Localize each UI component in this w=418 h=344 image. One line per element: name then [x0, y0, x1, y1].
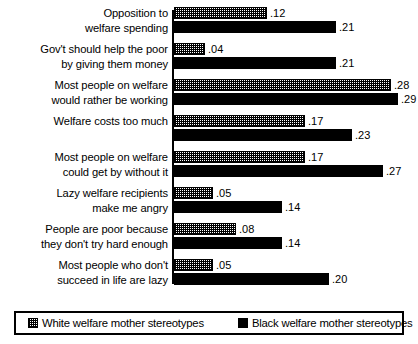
bar-value-label: .29 — [398, 93, 416, 105]
bar-black-series — [174, 165, 383, 177]
grouped-bar-chart: Opposition to welfare spending.12.21Gov'… — [0, 0, 418, 344]
bar-group: Lazy welfare recipients make me angry.05… — [0, 184, 418, 218]
bar-black-series — [174, 21, 336, 33]
bar-value-label: .04 — [205, 43, 223, 55]
chart-legend: White welfare mother stereotypes Black w… — [14, 311, 404, 335]
bar-group: People are poor because they don't try h… — [0, 220, 418, 254]
legend-label-black: Black welfare mother stereotypes — [252, 317, 413, 330]
bar-white-series — [174, 79, 391, 91]
legend-item-black: Black welfare mother stereotypes — [238, 317, 413, 330]
bar-value-label: .27 — [383, 165, 401, 177]
bar-group: Gov't should help the poor by giving the… — [0, 40, 418, 74]
legend-label-white: White welfare mother stereotypes — [42, 317, 204, 330]
bar-group: Most people on welfare could get by with… — [0, 148, 418, 182]
category-label: Most people on welfare would rather be w… — [8, 76, 168, 107]
bar-group: Opposition to welfare spending.12.21 — [0, 4, 418, 38]
bar-white-series — [174, 187, 213, 199]
bar-white-series — [174, 151, 305, 163]
bar-group: Most people who don't succeed in life ar… — [0, 256, 418, 290]
bar-white-series — [174, 115, 305, 127]
bar-white-series — [174, 7, 267, 19]
bar-black-series — [174, 237, 282, 249]
bar-black-series — [174, 57, 336, 69]
bar-value-label: .08 — [236, 223, 254, 235]
category-label: Welfare costs too much — [8, 112, 168, 129]
bar-group: Most people on welfare would rather be w… — [0, 76, 418, 110]
bar-value-label: .05 — [213, 259, 231, 271]
legend-swatch-solid-icon — [238, 318, 248, 328]
bar-value-label: .05 — [213, 187, 231, 199]
category-label: People are poor because they don't try h… — [8, 220, 168, 251]
bar-value-label: .23 — [352, 129, 370, 141]
bar-white-series — [174, 43, 205, 55]
bar-rows: Opposition to welfare spending.12.21Gov'… — [0, 4, 418, 292]
bar-value-label: .28 — [391, 79, 409, 91]
category-label: Gov't should help the poor by giving the… — [8, 40, 168, 71]
bar-value-label: .14 — [282, 201, 300, 213]
bar-value-label: .20 — [329, 273, 347, 285]
category-label: Most people on welfare could get by with… — [8, 148, 168, 179]
bar-black-series — [174, 201, 282, 213]
category-label: Most people who don't succeed in life ar… — [8, 256, 168, 287]
bar-black-series — [174, 129, 352, 141]
bar-value-label: .21 — [336, 57, 354, 69]
bar-value-label: .17 — [305, 151, 323, 163]
plot-area: Opposition to welfare spending.12.21Gov'… — [0, 4, 418, 292]
bar-value-label: .14 — [282, 237, 300, 249]
bar-group: Welfare costs too much.17.23 — [0, 112, 418, 146]
bar-white-series — [174, 259, 213, 271]
legend-item-white: White welfare mother stereotypes — [28, 317, 204, 330]
bar-value-label: .17 — [305, 115, 323, 127]
bar-value-label: .12 — [267, 7, 285, 19]
category-label: Lazy welfare recipients make me angry — [8, 184, 168, 215]
bar-black-series — [174, 273, 329, 285]
bar-white-series — [174, 223, 236, 235]
bar-black-series — [174, 93, 398, 105]
legend-swatch-hatched-icon — [28, 318, 38, 328]
bar-value-label: .21 — [336, 21, 354, 33]
category-label: Opposition to welfare spending — [8, 4, 168, 35]
